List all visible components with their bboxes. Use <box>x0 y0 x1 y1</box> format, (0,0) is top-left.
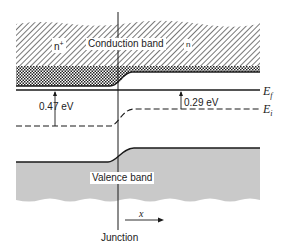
right-energy-label: 0.29 eV <box>184 97 218 109</box>
degenerate-electron-region <box>16 66 260 86</box>
arrow-head-icon <box>158 218 164 223</box>
left-energy-label: 0.47 eV <box>39 101 73 113</box>
arrow-head-icon <box>179 91 183 96</box>
fermi-level-label: Ef <box>263 85 273 102</box>
intrinsic-level-label: Ei <box>263 103 273 120</box>
n-plus-label: n+ <box>52 38 66 53</box>
x-axis-label: x <box>139 208 143 220</box>
valence-band-label: Valence band <box>90 172 154 184</box>
junction-label: Junction <box>101 232 138 244</box>
n-label: n <box>184 39 192 51</box>
conduction-band-label: Conduction band <box>86 38 166 50</box>
arrow-head-icon <box>53 91 57 96</box>
